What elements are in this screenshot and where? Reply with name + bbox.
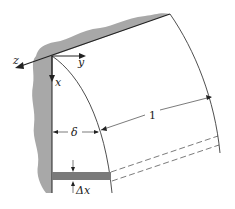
wall-top	[36, 13, 170, 56]
film-diagram: z y x δ 1 Δx	[0, 0, 235, 209]
unit-width-label: 1	[149, 109, 156, 122]
element-dx	[52, 172, 111, 180]
unit-width-dimension	[101, 95, 212, 131]
dashed-line-bottom	[112, 145, 219, 181]
wall-left	[32, 56, 52, 193]
x-axis-label: x	[55, 76, 62, 89]
dx-label: Δx	[75, 184, 91, 197]
z-axis-label: z	[12, 54, 19, 67]
film-surface-back	[170, 14, 220, 153]
dashed-line-top	[111, 136, 218, 172]
top-edge	[18, 14, 170, 67]
y-axis-label: y	[77, 56, 85, 69]
delta-label: δ	[71, 126, 78, 139]
